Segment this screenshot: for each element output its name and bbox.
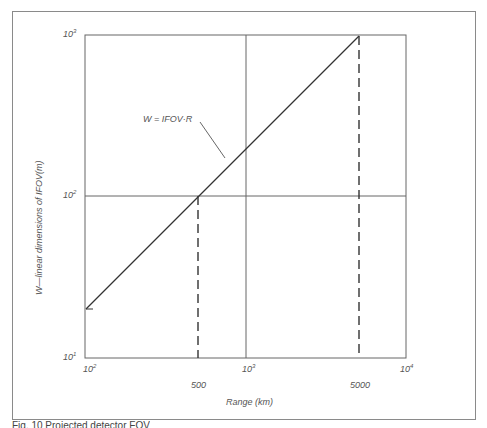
series-line-w-ifov-r	[86, 36, 359, 309]
figure-caption: Fig. 10 Projected detector FOV	[12, 421, 150, 428]
x-tick-10000: 104	[400, 364, 413, 374]
x-axis-title: Range (km)	[226, 397, 273, 407]
y-tick-1000: 103	[63, 29, 76, 39]
x-label-5000: 5000	[350, 380, 370, 390]
x-tick-100: 102	[83, 364, 96, 374]
y-axis-title: W—linear dimensions of IFOV(m)	[34, 160, 44, 295]
series-annotation: W = IFOV·R	[143, 114, 192, 124]
x-tick-1000: 103	[242, 364, 255, 374]
annotation-leader-line	[200, 122, 225, 158]
x-label-500: 500	[191, 380, 206, 390]
y-tick-100: 102	[63, 190, 76, 200]
y-tick-10: 101	[63, 352, 76, 362]
